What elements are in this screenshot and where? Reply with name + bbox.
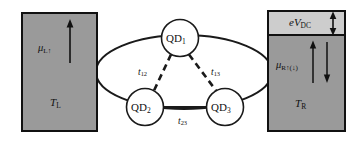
coupling-label-t23: t23 (178, 117, 187, 127)
t12-subscript: 12 (141, 70, 147, 77)
right-lead-chemical-potential-label: μR↑(↓) (276, 60, 298, 72)
quantum-dot-qd1-label: QD1 (166, 33, 186, 45)
right-lead-block (268, 35, 345, 131)
left-lead-temperature-label: TL (50, 97, 61, 109)
bias-subscript: DC (301, 21, 311, 30)
coupling-label-t12: t12 (138, 68, 147, 78)
quantum-dot-qd3-label: QD3 (211, 102, 231, 114)
figure-canvas: μL↑ TL eVDC μR↑(↓) TR QD1 QD2 QD3 t12 t1… (0, 0, 358, 141)
bias-symbol: eV (289, 16, 301, 28)
qd3-subscript: 3 (227, 106, 231, 115)
qd3-text: QD (211, 101, 227, 113)
mu-subscript-right: R↑(↓) (281, 64, 298, 72)
t23-subscript: 23 (181, 119, 187, 126)
mu-subscript-left: L↑ (43, 47, 51, 55)
coupling-line-t12 (154, 55, 171, 91)
coupling-label-t13: t13 (211, 68, 220, 78)
qd2-subscript: 2 (147, 106, 151, 115)
t13-subscript: 13 (214, 70, 220, 77)
left-lead-block (22, 13, 97, 131)
left-lead-chemical-potential-label: μL↑ (38, 43, 51, 55)
qd2-text: QD (131, 101, 147, 113)
qd1-text: QD (166, 32, 182, 44)
quantum-dot-qd2-label: QD2 (131, 102, 151, 114)
bias-voltage-label: eVDC (289, 17, 311, 29)
qd1-subscript: 1 (182, 37, 186, 46)
right-lead-temperature-label: TR (295, 98, 306, 110)
temperature-subscript-left: L (56, 101, 61, 110)
temperature-subscript-right: R (301, 102, 306, 111)
